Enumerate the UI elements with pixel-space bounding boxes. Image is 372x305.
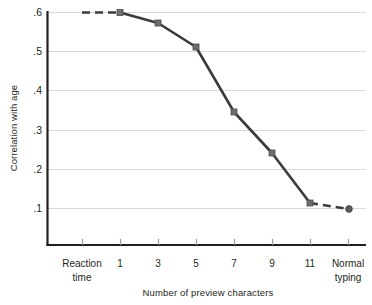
x-axis-title: Number of preview characters <box>143 287 274 298</box>
data-point-1 <box>117 10 123 16</box>
gridlines <box>47 13 366 209</box>
ytick-label-0.2: .2 <box>33 163 42 175</box>
data-point-markers <box>117 10 352 213</box>
ytick-label-0.3: .3 <box>33 124 42 136</box>
xtick-label-7: 7 <box>231 258 237 269</box>
xtick-label-11: 11 <box>305 258 316 269</box>
xtick-label-reaction-time-line2: time <box>73 272 92 283</box>
data-point-7 <box>231 109 237 115</box>
x-tick-labels: Reaction time 1 3 5 7 9 11 Normal typing <box>62 258 364 283</box>
y-tick-labels: .6 .5 .4 .3 .2 .1 <box>33 6 42 214</box>
xtick-label-normal-typing-line1: Normal <box>332 258 364 269</box>
xtick-label-5: 5 <box>193 258 199 269</box>
xtick-label-1: 1 <box>117 258 123 269</box>
data-point-5 <box>193 44 199 50</box>
data-point-normal-typing <box>346 206 353 213</box>
ytick-label-0.5: .5 <box>33 45 42 57</box>
ytick-label-0.4: .4 <box>33 84 42 96</box>
y-axis-title: Correlation with age <box>8 85 19 172</box>
data-point-9 <box>269 150 275 156</box>
xtick-label-9: 9 <box>269 258 275 269</box>
data-point-11 <box>307 200 313 206</box>
ytick-label-0.1: .1 <box>33 202 42 214</box>
data-point-3 <box>155 20 161 26</box>
xtick-label-3: 3 <box>155 258 161 269</box>
xtick-label-normal-typing-line2: typing <box>335 272 362 283</box>
xtick-label-reaction-time-line1: Reaction <box>62 258 101 269</box>
data-line-solid <box>120 13 310 204</box>
chart-figure: .6 .5 .4 .3 .2 .1 Reaction time 1 3 5 7 … <box>0 0 372 305</box>
ytick-label-0.6: .6 <box>33 6 42 18</box>
line-chart-plot: .6 .5 .4 .3 .2 .1 Reaction time 1 3 5 7 … <box>0 0 372 305</box>
